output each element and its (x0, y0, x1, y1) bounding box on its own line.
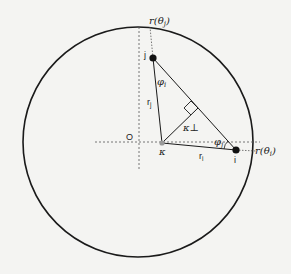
label-phi-j: φj (214, 136, 224, 149)
label-r-i: ri (199, 151, 203, 162)
label-kappa: κ (158, 146, 166, 157)
right-angle-marker (184, 101, 198, 115)
ray-to-r-theta-j (150, 27, 153, 58)
label-origin: O (126, 132, 133, 142)
label-kappa-perp: κ⊥ (182, 122, 199, 133)
point-kappa (159, 140, 164, 145)
geometry-diagram: r(θj) r(θi) φi φj κ⊥ rj ri O κ i j (0, 0, 291, 274)
label-point-i: i (234, 155, 236, 165)
point-i (232, 146, 239, 153)
label-phi-i: φi (157, 76, 166, 89)
segment-r-j (153, 58, 162, 143)
label-r-theta-j: r(θj) (149, 15, 170, 28)
point-j (149, 54, 156, 61)
label-r-j: rj (147, 97, 151, 109)
label-r-theta-i: r(θi) (255, 145, 276, 158)
diagram-canvas: r(θj) r(θi) φi φj κ⊥ rj ri O κ i j (0, 0, 291, 274)
label-point-j: j (143, 50, 146, 60)
segment-r-i (162, 143, 236, 150)
